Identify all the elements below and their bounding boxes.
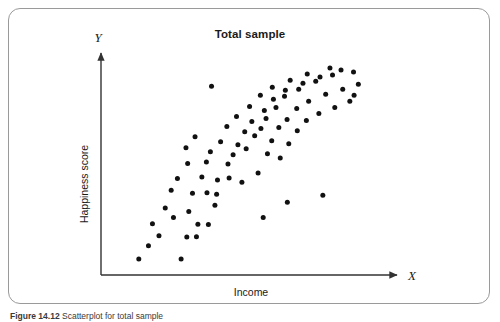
- data-point: [356, 82, 361, 87]
- data-point: [296, 87, 301, 92]
- data-point: [352, 93, 357, 98]
- data-point: [323, 92, 328, 97]
- data-point: [269, 138, 274, 143]
- y-axis-title: Happiness score: [78, 145, 90, 223]
- data-point: [204, 190, 209, 195]
- data-point: [320, 193, 325, 198]
- chart-area: Total sample Y X Happiness score: [9, 9, 491, 305]
- data-point: [330, 73, 335, 78]
- data-point: [305, 72, 310, 77]
- data-point: [194, 234, 199, 239]
- data-point: [184, 235, 189, 240]
- data-points-group: [136, 66, 361, 262]
- data-point: [227, 176, 232, 181]
- data-point: [332, 105, 337, 110]
- data-point: [273, 105, 278, 110]
- data-point: [169, 188, 174, 193]
- data-point: [278, 155, 283, 160]
- figure-caption-label: Figure 14.12: [10, 311, 60, 321]
- data-point: [351, 70, 356, 75]
- data-point: [206, 222, 211, 227]
- data-point: [265, 151, 270, 156]
- data-point: [215, 178, 220, 183]
- data-point: [276, 125, 281, 130]
- data-point: [304, 118, 309, 123]
- data-point: [286, 141, 291, 146]
- data-point: [252, 133, 257, 138]
- data-point: [186, 209, 191, 214]
- data-point: [313, 79, 318, 84]
- data-point: [185, 161, 190, 166]
- data-point: [316, 111, 321, 116]
- data-point: [339, 68, 344, 73]
- data-point: [258, 126, 263, 131]
- data-point: [156, 233, 161, 238]
- x-axis-title: Income: [234, 286, 269, 298]
- data-point: [264, 116, 269, 121]
- data-point: [258, 93, 263, 98]
- figure-card: Total sample Y X Happiness score: [8, 8, 490, 304]
- data-point: [234, 114, 239, 119]
- data-point: [171, 215, 176, 220]
- data-point: [195, 222, 200, 227]
- data-point: [294, 106, 299, 111]
- data-point: [271, 97, 276, 102]
- data-point: [247, 104, 252, 109]
- data-point: [242, 129, 247, 134]
- data-point: [175, 176, 180, 181]
- data-point: [208, 149, 213, 154]
- data-point: [256, 171, 261, 176]
- data-point: [204, 159, 209, 164]
- scatter-plot: Y X Happiness score Income: [9, 9, 491, 305]
- data-point: [163, 206, 168, 211]
- figure-caption: Figure 14.12 Scatterplot for total sampl…: [10, 311, 480, 322]
- data-point: [249, 119, 254, 124]
- data-point: [347, 99, 352, 104]
- data-point: [288, 78, 293, 83]
- data-point: [212, 203, 217, 208]
- data-point: [244, 146, 249, 151]
- data-point: [285, 117, 290, 122]
- y-axis-letter: Y: [94, 30, 103, 45]
- data-point: [270, 85, 275, 90]
- data-point: [183, 145, 188, 150]
- figure-root: Total sample Y X Happiness score: [0, 0, 500, 322]
- data-point: [261, 215, 266, 220]
- data-point: [231, 152, 236, 157]
- figure-caption-text: Scatterplot for total sample: [62, 311, 163, 321]
- data-point: [283, 88, 288, 93]
- data-point: [285, 200, 290, 205]
- data-point: [179, 256, 184, 261]
- data-point: [295, 128, 300, 133]
- data-point: [190, 191, 195, 196]
- data-point: [224, 124, 229, 129]
- data-point: [300, 81, 305, 86]
- data-point: [262, 108, 267, 113]
- data-point: [306, 99, 311, 104]
- data-point: [318, 75, 323, 80]
- data-point: [150, 221, 155, 226]
- data-point: [199, 175, 204, 180]
- data-point: [235, 142, 240, 147]
- data-point: [209, 84, 214, 89]
- x-axis-letter: X: [407, 268, 417, 283]
- data-point: [327, 66, 332, 71]
- data-point: [282, 94, 287, 99]
- data-point: [239, 180, 244, 185]
- data-point: [214, 192, 219, 197]
- data-point: [225, 161, 230, 166]
- data-point: [136, 256, 141, 261]
- data-point: [218, 139, 223, 144]
- data-point: [193, 134, 198, 139]
- data-point: [146, 243, 151, 248]
- data-point: [340, 87, 345, 92]
